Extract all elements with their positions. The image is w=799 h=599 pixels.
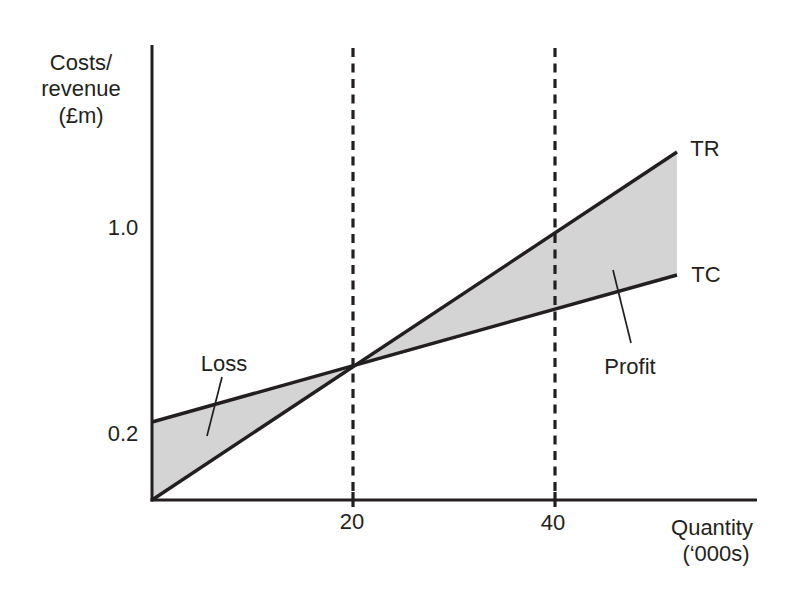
- y-axis-title-line-1: Costs/: [50, 50, 113, 75]
- loss-region-label: Loss: [201, 351, 247, 376]
- total-revenue-line: [152, 152, 677, 500]
- x-tick-label-40: 40: [541, 510, 565, 535]
- y-axis-title-line-3: (£m): [58, 103, 103, 128]
- profit-region-label: Profit: [604, 354, 655, 379]
- break-even-chart-figure: Costs/ revenue (£m) 1.0 0.2 20 40 Quanti…: [0, 0, 799, 599]
- total-revenue-label: TR: [690, 136, 719, 161]
- x-axis-title-line-2: (‘000s): [682, 541, 749, 566]
- x-tick-label-20: 20: [340, 509, 364, 534]
- total-cost-label: TC: [691, 262, 720, 287]
- y-tick-label-1-0: 1.0: [108, 215, 139, 240]
- y-tick-label-0-2: 0.2: [108, 421, 139, 446]
- y-axis-title-line-2: revenue: [41, 76, 121, 101]
- break-even-chart-canvas: Costs/ revenue (£m) 1.0 0.2 20 40 Quanti…: [0, 0, 799, 599]
- total-cost-line: [152, 275, 677, 422]
- x-axis-title-line-1: Quantity: [671, 515, 753, 540]
